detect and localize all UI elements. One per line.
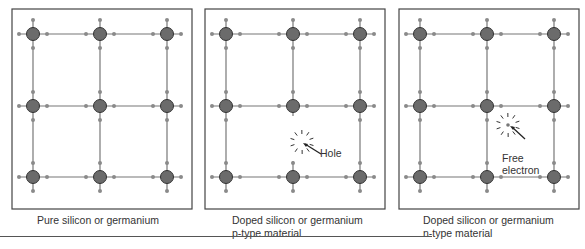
semiconductor-lattice-diagram	[0, 0, 585, 249]
caption-p-type-2: p-type material	[232, 227, 301, 240]
hole-label: Hole	[320, 147, 342, 160]
bottom-divider	[0, 236, 432, 237]
caption-pure: Pure silicon or germanium	[37, 214, 159, 227]
caption-n-type-1: Doped silicon or germanium	[423, 214, 554, 227]
free-electron-label-2: electron	[502, 164, 539, 177]
caption-n-type-2: n-type material	[423, 227, 492, 240]
caption-p-type-1: Doped silicon or germanium	[232, 214, 363, 227]
